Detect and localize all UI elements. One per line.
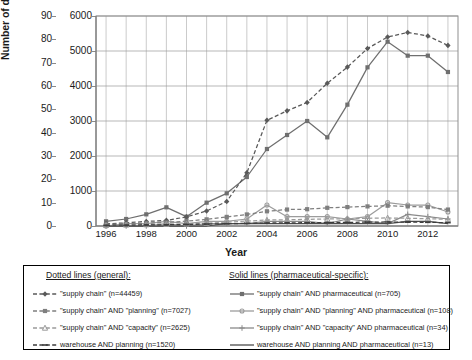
legend-heading-solid: Solid lines (pharmaceutical-specific): — [229, 270, 447, 280]
legend-item-label: warehouse AND planning (n=1520) — [60, 340, 175, 349]
legend-item[interactable]: "supply chain" AND pharmaceutical (n=705… — [229, 285, 447, 302]
legend-item[interactable]: "supply chain" AND "planning" (n=7027) — [32, 302, 228, 319]
chart-page: Number of documents Year 908070605040302… — [0, 0, 472, 360]
legend-item-label: "supply chain" AND "capacity" (n=2625) — [60, 323, 190, 332]
plot-canvas — [0, 0, 472, 262]
legend-heading-dotted: Dotted lines (general): — [46, 270, 228, 280]
legend-item[interactable]: "supply chain" AND "capacity" (n=2625) — [32, 319, 228, 336]
legend-item[interactable]: warehouse AND planning AND pharmaceutica… — [229, 336, 447, 353]
legend-item[interactable]: warehouse AND planning (n=1520) — [32, 336, 228, 353]
legend-item[interactable]: "supply chain" AND "capacity" AND pharma… — [229, 319, 447, 336]
legend-item-label: "supply chain" AND "planning" (n=7027) — [60, 306, 191, 315]
legend-item-label: "supply chain" AND "capacity" AND pharma… — [257, 323, 448, 332]
legend-column-solid: Solid lines (pharmaceutical-specific): "… — [229, 270, 447, 353]
legend-item[interactable]: "supply chain" (n=44459) — [32, 285, 228, 302]
chart-area: Number of documents Year 908070605040302… — [0, 0, 472, 262]
legend-line-sample — [229, 306, 255, 316]
legend-item-label: "supply chain" AND "planning" AND pharma… — [257, 306, 453, 315]
legend-line-sample — [32, 289, 58, 299]
legend-line-sample — [229, 340, 255, 350]
legend-line-sample — [229, 289, 255, 299]
legend-item-label: "supply chain" AND pharmaceutical (n=705… — [257, 289, 401, 298]
legend-line-sample — [32, 306, 58, 316]
legend-line-sample — [32, 340, 58, 350]
legend-line-sample — [229, 323, 255, 333]
legend-item-label: warehouse AND planning AND pharmaceutica… — [257, 340, 433, 349]
legend-item-label: "supply chain" (n=44459) — [60, 289, 142, 298]
legend-column-dotted: Dotted lines (general): "supply chain" (… — [32, 270, 228, 353]
legend-line-sample — [32, 323, 58, 333]
legend-item[interactable]: "supply chain" AND "planning" AND pharma… — [229, 302, 447, 319]
chart-legend: Dotted lines (general): "supply chain" (… — [23, 265, 450, 350]
